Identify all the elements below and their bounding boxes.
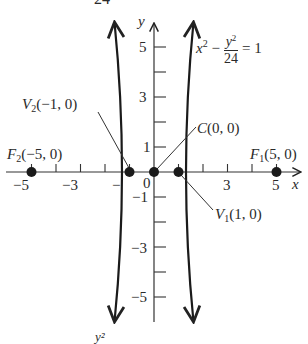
x-tick-neg3: −3 bbox=[62, 178, 78, 193]
eq-equals: = 1 bbox=[242, 40, 262, 56]
eq-x-exp: 2 bbox=[203, 38, 208, 49]
eq-y-exp: 2 bbox=[232, 33, 237, 43]
eq-x: x bbox=[196, 40, 203, 56]
eq-fraction: y2 24 bbox=[224, 34, 239, 66]
label-c: C(0, 0) bbox=[197, 121, 240, 136]
y-tick-5: 5 bbox=[139, 40, 147, 55]
point-v2 bbox=[125, 167, 135, 177]
y-tick-1: 1 bbox=[143, 140, 151, 155]
point-f1 bbox=[272, 167, 282, 177]
label-v1: V1(1, 0) bbox=[215, 207, 262, 224]
x-tick-5: 5 bbox=[272, 178, 280, 193]
top-cropped-text: 24 bbox=[94, 0, 110, 7]
bottom-cropped-text: y² bbox=[95, 330, 105, 343]
y-tick-3: 3 bbox=[139, 90, 147, 105]
point-c bbox=[149, 167, 159, 177]
y-tick-neg1: −1 bbox=[132, 190, 148, 205]
equation: x2 − y2 24 = 1 bbox=[196, 34, 262, 66]
point-f2 bbox=[27, 167, 37, 177]
eq-minus: − bbox=[211, 40, 219, 56]
x-tick-0: 0 bbox=[143, 176, 151, 191]
eq-den: 24 bbox=[224, 51, 239, 66]
c-leader bbox=[157, 127, 196, 169]
point-v1 bbox=[174, 167, 184, 177]
y-axis-label: y bbox=[138, 14, 145, 29]
y-tick-neg3: −3 bbox=[131, 241, 147, 256]
y-tick-neg5: −5 bbox=[131, 290, 147, 305]
x-axis-label: x bbox=[292, 177, 299, 192]
x-tick-neg1: − bbox=[112, 178, 120, 193]
label-f2: F2(−5, 0) bbox=[7, 147, 62, 164]
x-tick-3: 3 bbox=[223, 178, 231, 193]
label-f1: F1(5, 0) bbox=[250, 147, 297, 164]
label-v2: V2(−1, 0) bbox=[22, 97, 77, 114]
x-tick-neg5: −5 bbox=[13, 178, 29, 193]
v2-leader bbox=[98, 112, 129, 168]
